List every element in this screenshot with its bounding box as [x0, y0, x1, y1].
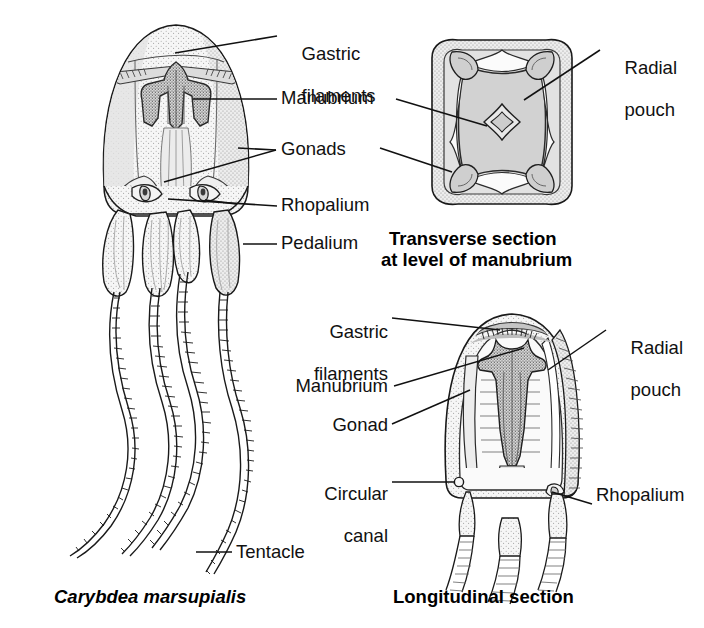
label-manubrium-longitudinal: Manubrium — [228, 375, 388, 396]
pedalia-group — [103, 210, 240, 297]
ls-pedalia-tentacles — [459, 492, 567, 556]
label-line-2: pouch — [631, 379, 681, 400]
pedalium-3 — [174, 210, 200, 283]
pedalium-4 — [210, 210, 240, 295]
pedalium-2 — [143, 212, 174, 297]
transverse-section-drawing — [380, 40, 600, 205]
label-line-1: Circular — [324, 483, 388, 504]
label-line-2: pouch — [625, 99, 675, 120]
figure-canvas: Gastric filaments Manubrium Gonads Rhopa… — [0, 0, 704, 628]
label-gonads-whole: Gonads — [281, 138, 346, 159]
label-radial-pouch-longitudinal: Radial pouch — [610, 316, 683, 421]
tentacle-1 — [70, 292, 128, 556]
label-line-1: Radial — [631, 337, 683, 358]
label-line-1: Radial — [625, 57, 677, 78]
label-pedalium-whole: Pedalium — [281, 232, 358, 253]
tentacle-1-bands — [76, 298, 139, 551]
caption-transverse-line-2: at level of manubrium — [381, 249, 572, 270]
caption-species: Carybdea marsupialis — [54, 586, 246, 607]
tentacle-group — [70, 272, 254, 574]
caption-longitudinal: Longitudinal section — [393, 586, 574, 607]
label-circular-canal: Circular canal — [228, 462, 388, 567]
label-line-1: Gastric — [302, 43, 361, 64]
label-rhopalium-longitudinal: Rhopalium — [596, 484, 684, 505]
longitudinal-section-drawing — [392, 314, 606, 604]
label-manubrium-whole: Manubrium — [281, 87, 374, 108]
label-line-2: canal — [344, 525, 388, 546]
caption-transverse-line-1: Transverse section — [389, 228, 557, 249]
label-line-1: Gastric — [329, 321, 388, 342]
label-rhopalium-whole: Rhopalium — [281, 194, 369, 215]
label-radial-pouch-transverse: Radial pouch — [604, 36, 677, 141]
label-gastric-filaments-whole: Gastric filaments — [281, 22, 376, 127]
ls-circular-canal — [454, 477, 463, 486]
label-gonad-longitudinal: Gonad — [228, 414, 388, 435]
